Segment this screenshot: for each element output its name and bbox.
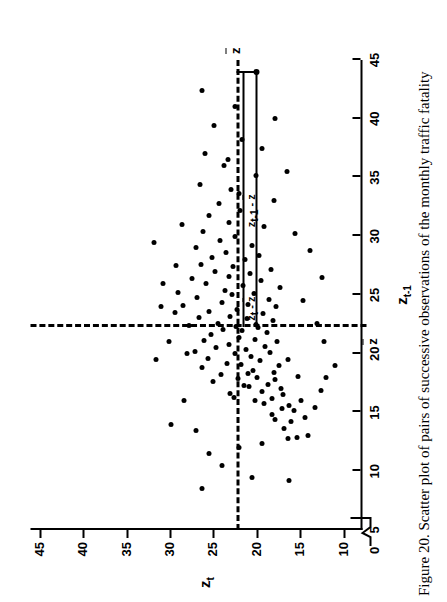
scatter-point [260, 311, 265, 316]
scatter-point [172, 310, 177, 315]
scatter-point [218, 372, 223, 377]
scatter-point [271, 199, 276, 204]
scatter-point [254, 375, 259, 380]
x-axis-title-subscript: t-1 [401, 285, 412, 297]
scatter-plot-area [30, 60, 360, 530]
scatter-point [199, 88, 204, 93]
scatter-point [184, 351, 189, 356]
scatter-point [312, 405, 317, 410]
scatter-point [272, 377, 277, 382]
scatter-point [305, 434, 310, 439]
scatter-point [153, 357, 158, 362]
scatter-point [252, 337, 257, 342]
scatter-point [281, 426, 286, 431]
x-tick-label: 40 [366, 112, 381, 126]
scatter-point [270, 318, 275, 323]
scatter-point [288, 419, 293, 424]
figure-caption: Figure 20. Scatter plot of pairs of succ… [415, 0, 432, 602]
scatter-point [274, 340, 279, 345]
scatter-point [199, 365, 204, 370]
x-tick [352, 58, 360, 60]
scatter-point [196, 315, 201, 320]
x-tick [352, 352, 360, 354]
scatter-point [219, 300, 224, 305]
scatter-point [259, 146, 264, 151]
y-tick [82, 530, 84, 538]
y-tick-label: 30 [161, 542, 176, 562]
scatter-point [267, 350, 272, 355]
scatter-point [319, 275, 324, 280]
scatter-point [217, 238, 222, 243]
scatter-point [298, 398, 303, 403]
scatter-point [247, 271, 252, 276]
scatter-point [286, 403, 291, 408]
scatter-point [225, 157, 230, 162]
y-axis-title: zt [195, 577, 215, 588]
scatter-point [206, 451, 211, 456]
scatter-point [321, 340, 326, 345]
ann-side-sub: t-1 [248, 210, 259, 222]
scatter-point [277, 285, 282, 290]
x-tick [352, 469, 360, 471]
scatter-point [158, 304, 163, 309]
scatter-point [224, 361, 229, 366]
scatter-point [291, 408, 296, 413]
scatter-point [199, 486, 204, 491]
y-tick [169, 530, 171, 538]
scatter-point [252, 398, 257, 403]
scatter-point [166, 340, 171, 345]
scatter-point [243, 347, 248, 352]
scatter-point [202, 152, 207, 157]
y-tick [299, 530, 301, 538]
scatter-point [194, 295, 199, 300]
scatter-point [258, 278, 263, 283]
scatter-point [285, 357, 290, 362]
scatter-point [173, 263, 178, 268]
scatter-point [227, 391, 232, 396]
scatter-point [264, 330, 269, 335]
scatter-point [220, 327, 225, 332]
scatter-point [192, 349, 197, 354]
scatter-point [211, 123, 216, 128]
y-tick-label: 35 [118, 542, 133, 562]
scatter-point [332, 363, 337, 368]
scatter-point [268, 267, 273, 272]
z-bar-glyph-x: z [364, 338, 379, 345]
scatter-point [285, 436, 290, 441]
annotation-ztminus1-minus-zbar: zt-1 - z [244, 194, 259, 227]
scatter-point [318, 388, 323, 393]
scatter-point [249, 243, 254, 248]
scatter-point [280, 392, 285, 397]
scatter-point [259, 441, 264, 446]
scatter-point [249, 475, 254, 480]
scatter-point [193, 246, 198, 251]
scatter-point [271, 370, 276, 375]
y-tick [256, 530, 258, 538]
x-tick-label: 10 [366, 464, 381, 478]
scatter-point [200, 229, 205, 234]
scatter-point [175, 290, 180, 295]
scatter-point [208, 332, 213, 337]
scatter-point [229, 293, 234, 298]
scatter-point [323, 375, 328, 380]
y-tick-label: 40 [75, 542, 90, 562]
y-tick-label: 15 [292, 542, 307, 562]
scatter-point [273, 304, 278, 309]
scatter-point [228, 187, 233, 192]
x-tick-label: 45 [366, 53, 381, 67]
y-tick-label: 20 [248, 542, 263, 562]
scatter-point [307, 248, 312, 253]
scatter-point [241, 383, 246, 388]
scatter-point [198, 262, 203, 267]
scatter-point [245, 371, 250, 376]
axis-break-icon [348, 512, 374, 546]
scatter-point [226, 342, 231, 347]
scatter-point [179, 222, 184, 227]
mean-line-vertical [30, 324, 366, 327]
scatter-point [189, 276, 194, 281]
x-tick [352, 234, 360, 236]
scatter-point [272, 116, 277, 121]
y-tick-label: 25 [205, 542, 220, 562]
scatter-point [226, 274, 231, 279]
mean-label-x: z [364, 338, 379, 345]
